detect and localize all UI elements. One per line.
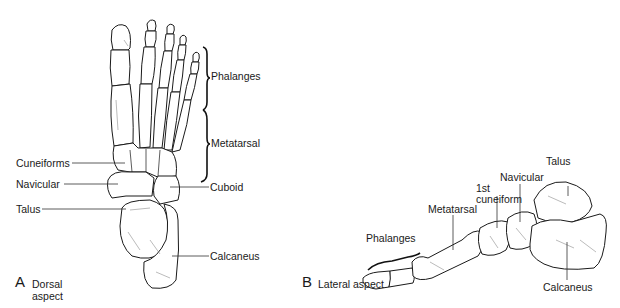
panel-letter-b: B [302,274,312,290]
dorsal-foot-illustration [0,0,620,308]
panel-letter-a: A [15,274,25,290]
label-metatarsal-b: Metatarsal [428,203,477,215]
label-talus-b: Talus [546,155,571,167]
label-calcaneus-a: Calcaneus [210,250,260,262]
label-metatarsal-a: Metatarsal [211,137,260,149]
label-cuneiform-b: cuneiform [476,193,522,205]
label-phalanges-a: Phalanges [211,70,261,82]
label-talus-a: Talus [16,203,41,215]
label-cuboid-a: Cuboid [210,181,243,193]
label-cuneiforms-a: Cuneiforms [16,157,70,169]
foot-anatomy-figure: Phalanges Metatarsal Cuneiforms Navicula… [0,0,620,308]
label-calcaneus-b: Calcaneus [543,281,593,293]
label-navicular-a: Navicular [16,178,60,190]
label-phalanges-b: Phalanges [366,232,416,244]
caption-lateral-aspect: Lateral aspect [318,278,384,290]
label-navicular-b: Navicular [500,171,544,183]
caption-dorsal: Dorsal [32,278,62,290]
caption-aspect: aspect [32,290,63,302]
